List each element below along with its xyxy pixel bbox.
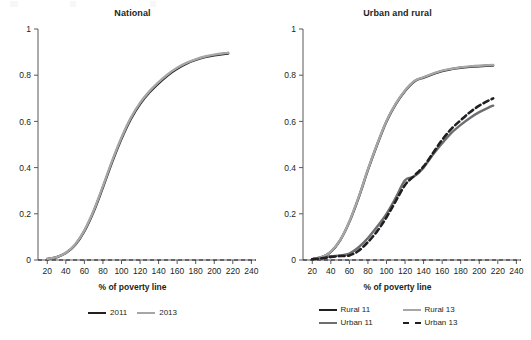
legend-swatch-dashed-line-icon	[403, 322, 421, 324]
legend-item-urban-13[interactable]: Urban 13	[403, 316, 477, 329]
y-axis-tick-label: 0	[291, 255, 296, 265]
x-axis-tick-label: 80	[98, 266, 108, 276]
legend-label-urban-13: Urban 13	[425, 316, 458, 329]
legend-item-2011[interactable]: 2011	[88, 306, 127, 319]
x-axis-tick-label: 200	[207, 266, 221, 276]
x-axis-tick-label: 60	[80, 266, 90, 276]
x-axis-tick-label: 180	[189, 266, 203, 276]
plot-area-urban-and-rural: 00.20.40.60.8120406080100120140160180200…	[303, 29, 521, 260]
legend-swatch-line-icon	[88, 312, 106, 314]
x-axis-tick-label: 200	[472, 266, 486, 276]
y-axis-tick-label: 0.2	[284, 209, 296, 219]
y-axis-tick-label: 1	[26, 24, 31, 34]
legend-label-2011: 2011	[110, 306, 127, 319]
chart-svg-urban-and-rural: 00.20.40.60.8120406080100120140160180200…	[303, 29, 521, 260]
y-axis-tick-label: 1	[291, 24, 296, 34]
panel-urban-and-rural: Urban and rural 00.20.40.60.812040608010…	[265, 0, 530, 340]
y-axis-tick-label: 0	[26, 255, 31, 265]
x-axis-tick-label: 140	[152, 266, 166, 276]
x-axis-tick-label: 120	[133, 266, 147, 276]
legend-item-rural-13[interactable]: Rural 13	[403, 303, 477, 316]
x-axis-tick-label: 180	[454, 266, 468, 276]
legend-item-urban-11[interactable]: Urban 11	[319, 316, 393, 329]
x-axis-tick-label: 140	[417, 266, 431, 276]
x-axis-tick-label: 40	[326, 266, 336, 276]
series-line-2013	[47, 53, 228, 259]
series-line-rural-13	[312, 65, 493, 259]
legend-item-2013[interactable]: 2013	[137, 306, 177, 319]
y-axis-tick-label: 0.8	[284, 70, 296, 80]
legend-urban-and-rural: Rural 11 Rural 13 Urban 11 Urban 13	[265, 303, 530, 329]
x-axis-tick-label: 220	[491, 266, 505, 276]
x-axis-label-national: % of poverty line	[0, 282, 265, 292]
legend-swatch-line-icon	[137, 312, 155, 314]
series-line-urban-11	[312, 106, 493, 260]
x-axis-tick-label: 40	[61, 266, 71, 276]
y-axis-tick-label: 0.6	[284, 117, 296, 127]
legend-label-2013: 2013	[159, 306, 177, 319]
plot-area-national: 00.20.40.60.8120406080100120140160180200…	[38, 29, 256, 260]
legend-national: 2011 2013	[0, 306, 265, 319]
x-axis-label-urban-and-rural: % of poverty line	[265, 282, 530, 292]
panel-title-national: National	[0, 8, 265, 18]
legend-swatch-line-icon	[319, 322, 337, 324]
legend-item-rural-11[interactable]: Rural 11	[319, 303, 393, 316]
legend-label-rural-11: Rural 11	[341, 303, 371, 316]
legend-label-urban-11: Urban 11	[341, 316, 373, 329]
panel-national: National 00.20.40.60.8120406080100120140…	[0, 0, 265, 340]
x-axis-tick-label: 100	[114, 266, 128, 276]
legend-swatch-line-icon	[403, 309, 421, 311]
series-line-urban-13	[312, 98, 493, 259]
legend-label-rural-13: Rural 13	[425, 303, 455, 316]
y-axis-tick-label: 0.6	[19, 117, 31, 127]
x-axis-tick-label: 20	[43, 266, 53, 276]
y-axis-tick-label: 0.4	[284, 163, 296, 173]
x-axis-tick-label: 240	[244, 266, 258, 276]
x-axis-tick-label: 20	[308, 266, 318, 276]
x-axis-tick-label: 220	[226, 266, 240, 276]
panel-title-urban-and-rural: Urban and rural	[265, 8, 530, 18]
y-axis-tick-label: 0.8	[19, 70, 31, 80]
x-axis-tick-label: 160	[170, 266, 184, 276]
series-line-2011	[47, 53, 228, 258]
y-axis-tick-label: 0.2	[19, 209, 31, 219]
x-axis-tick-label: 120	[398, 266, 412, 276]
x-axis-tick-label: 60	[345, 266, 355, 276]
figure-two-panel-poverty-cdf: National 00.20.40.60.8120406080100120140…	[0, 0, 531, 340]
x-axis-tick-label: 160	[435, 266, 449, 276]
x-axis-tick-label: 80	[363, 266, 373, 276]
y-axis-tick-label: 0.4	[19, 163, 31, 173]
legend-swatch-line-icon	[319, 309, 337, 311]
x-axis-tick-label: 240	[509, 266, 523, 276]
chart-svg-national: 00.20.40.60.8120406080100120140160180200…	[38, 29, 256, 260]
x-axis-tick-label: 100	[379, 266, 393, 276]
